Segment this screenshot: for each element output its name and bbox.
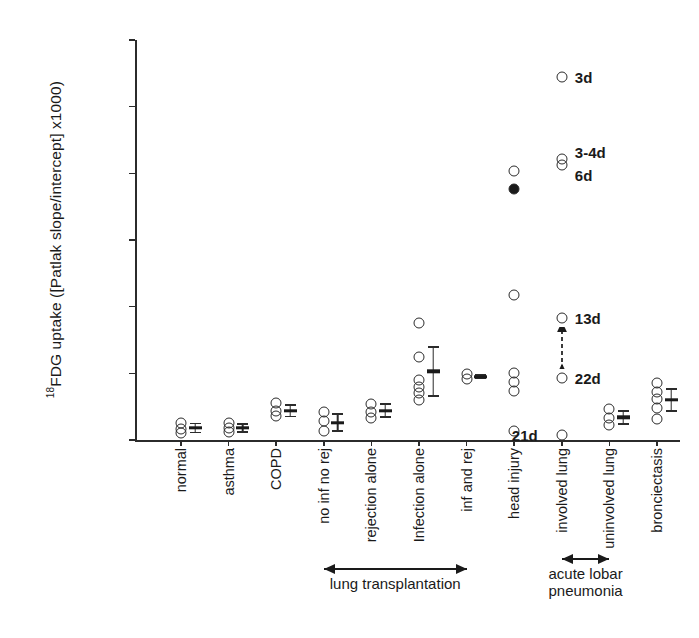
data-point	[461, 373, 472, 384]
mean-marker	[236, 426, 249, 429]
error-bar-cap-top	[380, 403, 391, 405]
y-axis-title-superscript: 18	[45, 387, 56, 398]
group-label: lung transplantation	[330, 575, 461, 592]
mean-sd-marker	[427, 346, 440, 397]
mean-sd-marker	[665, 388, 678, 412]
data-point	[509, 290, 520, 301]
x-tick	[609, 440, 611, 446]
error-bar-cap-bottom	[190, 432, 201, 434]
mean-sd-marker	[236, 423, 249, 432]
error-bar-cap-top	[285, 404, 296, 406]
point-annotation-21d: 21d	[512, 427, 538, 444]
y-axis-title-text: FDG uptake ([Patlak slope/intercept] x10…	[47, 81, 64, 387]
point-annotation-13d: 13d	[575, 310, 601, 327]
data-point	[366, 413, 377, 424]
error-bar-cap-bottom	[380, 416, 391, 418]
y-tick	[129, 239, 135, 241]
mean-marker	[427, 370, 440, 373]
mean-sd-marker	[189, 423, 202, 434]
data-point	[414, 395, 425, 406]
error-bar-cap-top	[428, 346, 439, 348]
x-tick	[656, 440, 658, 446]
group-bracket-line	[324, 568, 467, 570]
y-axis-line	[135, 40, 137, 440]
x-axis-label-involved-lung: involved lung	[554, 448, 570, 533]
y-tick	[129, 39, 135, 41]
dashed-connector-arrow	[552, 327, 572, 369]
mean-marker	[284, 409, 297, 412]
group-label: acute lobarpneumonia	[548, 565, 622, 600]
point-annotation-22d: 22d	[575, 370, 601, 387]
data-point	[556, 71, 567, 82]
mean-marker	[379, 409, 392, 412]
scatter-plot-figure: 18FDG uptake ([Patlak slope/intercept] x…	[0, 0, 699, 638]
mean-marker	[665, 398, 678, 401]
point-annotation-6d: 6d	[575, 166, 593, 183]
error-bar-cap-top	[618, 410, 629, 412]
error-bar-cap-bottom	[666, 410, 677, 412]
x-tick	[228, 440, 230, 446]
x-axis-label-infection-alone: Infection alone	[411, 448, 427, 542]
error-bar-cap-bottom	[618, 423, 629, 425]
data-point	[556, 313, 567, 324]
y-tick	[129, 373, 135, 375]
error-bar-cap-top	[666, 388, 677, 390]
x-axis-label-uninvolved-lung: uninvolved lung	[601, 448, 617, 549]
data-point	[509, 183, 520, 194]
data-point	[556, 159, 567, 170]
x-tick	[323, 440, 325, 446]
mean-sd-marker	[474, 374, 487, 379]
y-tick	[129, 439, 135, 441]
x-axis-line	[135, 440, 680, 442]
x-tick	[418, 440, 420, 446]
mean-marker	[331, 421, 344, 424]
arrow-right-icon	[456, 564, 467, 574]
y-tick	[129, 173, 135, 175]
error-bar-cap-bottom	[237, 431, 248, 433]
arrow-left-icon	[324, 564, 335, 574]
x-tick	[561, 440, 563, 446]
data-point	[652, 413, 663, 424]
x-tick	[466, 440, 468, 446]
mean-marker	[189, 426, 202, 429]
point-annotation-3-4d: 3-4d	[575, 143, 606, 160]
data-point	[509, 386, 520, 397]
data-point	[509, 166, 520, 177]
error-bar-cap-bottom	[428, 395, 439, 397]
x-axis-label-no-inf-no-rej: no inf no rej	[316, 448, 332, 524]
mean-sd-marker	[284, 404, 297, 417]
data-point	[652, 403, 663, 414]
data-point	[556, 373, 567, 384]
y-tick	[129, 306, 135, 308]
mean-sd-marker	[331, 413, 344, 432]
data-point	[556, 430, 567, 441]
mean-sd-marker	[379, 403, 392, 418]
x-tick	[371, 440, 373, 446]
error-bar-cap-top	[237, 423, 248, 425]
arrow-right-icon	[598, 554, 609, 564]
error-bar-cap-top	[332, 413, 343, 415]
x-axis-label-rejection-alone: rejection alone	[363, 448, 379, 542]
x-axis-label-copd: COPD	[268, 448, 284, 490]
x-axis-label-inf-and-rej: inf and rej	[459, 448, 475, 512]
x-axis-label-asthma: asthma	[221, 448, 237, 496]
data-point	[414, 318, 425, 329]
data-point	[223, 427, 234, 438]
data-point	[176, 428, 187, 439]
point-annotation-3d: 3d	[575, 68, 593, 85]
data-point	[271, 411, 282, 422]
mean-marker	[474, 375, 487, 378]
error-bar-cap-top	[190, 423, 201, 425]
data-point	[414, 351, 425, 362]
x-tick	[180, 440, 182, 446]
data-point	[318, 425, 329, 436]
mean-sd-marker	[617, 410, 630, 425]
y-axis-title: 18FDG uptake ([Patlak slope/intercept] x…	[45, 25, 64, 455]
arrow-left-icon	[562, 554, 573, 564]
error-bar-cap-bottom	[285, 416, 296, 418]
x-axis-label-bronciectasis: bronciectasis	[649, 448, 665, 533]
data-point	[604, 419, 615, 430]
x-tick	[275, 440, 277, 446]
x-axis-label-head-injury: head injury	[506, 448, 522, 519]
mean-marker	[617, 416, 630, 419]
